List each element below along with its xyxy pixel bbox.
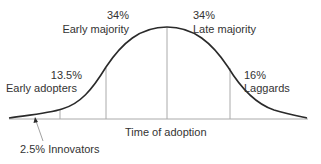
innovators-leader-line (36, 121, 43, 141)
early-majority-label: Early majority (40, 23, 129, 36)
late-majority-label: Late majority (193, 23, 256, 36)
late-majority-percent: 34% (193, 9, 215, 22)
early-adopters-label: Early adopters (6, 82, 77, 95)
laggards-percent: 16% (244, 69, 266, 82)
early-adopters-percent: 13.5% (30, 69, 82, 82)
x-axis-label: Time of adoption (125, 126, 207, 139)
innovators-label: 2.5% Innovators (20, 143, 100, 156)
laggards-label: Laggards (244, 82, 290, 95)
innovators-arrowhead (34, 117, 39, 123)
early-majority-percent: 34% (86, 9, 129, 22)
